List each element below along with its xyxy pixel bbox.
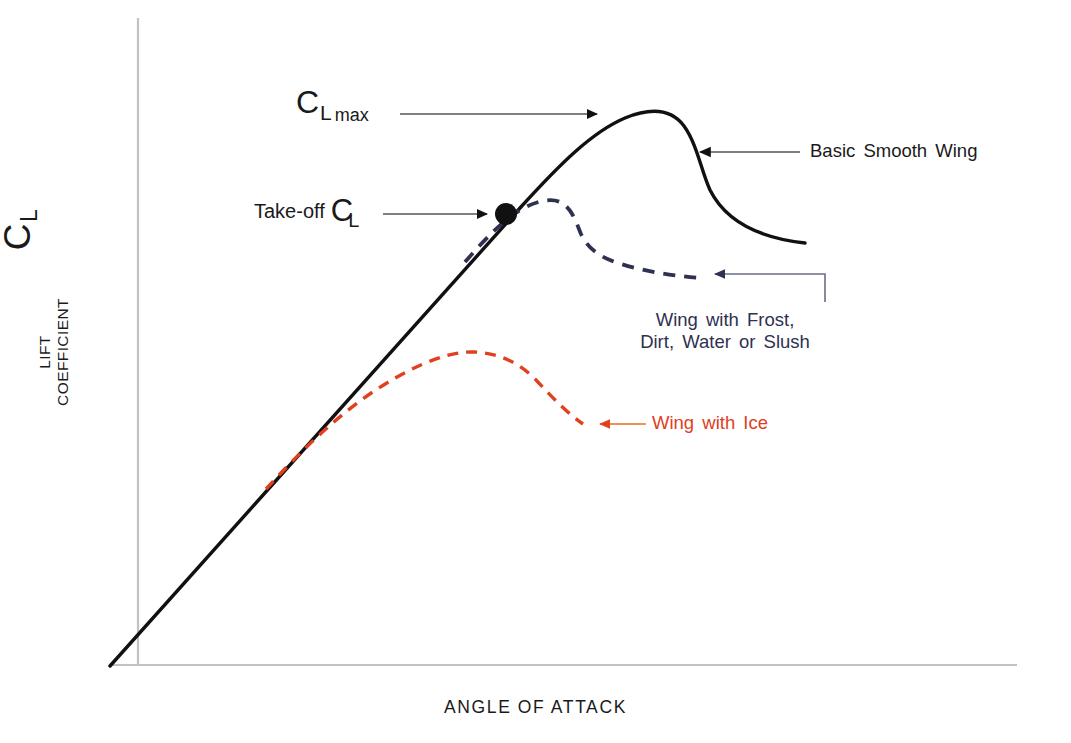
y-axis-title: LIFT COEFFICIENT: [36, 252, 73, 452]
take-off-prefix: Take-off: [254, 200, 325, 222]
curve-wing-with-ice: [266, 352, 583, 489]
y-axis-title-line1: LIFT: [36, 335, 53, 368]
lift-coefficient-chart: CL LIFT COEFFICIENT ANGLE OF ATTACK CLma…: [0, 0, 1071, 743]
cl-max-main: C: [296, 84, 319, 120]
y-axis-title-line2: COEFFICIENT: [54, 252, 72, 452]
take-off-point-marker: [495, 203, 517, 225]
x-axis-title: ANGLE OF ATTACK: [0, 697, 1071, 718]
annotation-leaders: [383, 114, 825, 424]
wing-with-ice-label: Wing with Ice: [652, 412, 768, 434]
frost-leader-line: [715, 274, 825, 302]
cl-max-subscript-max: max: [335, 105, 369, 125]
y-axis-symbol-subscript: L: [16, 209, 42, 222]
plot-canvas: [0, 0, 1071, 743]
take-off-subscript-l: L: [348, 209, 359, 231]
cl-max-subscript-l: L: [320, 101, 332, 124]
axis-lines: [110, 18, 1017, 666]
wing-with-frost-line2: Dirt, Water or Slush: [640, 331, 810, 353]
basic-smooth-wing-label: Basic Smooth Wing: [810, 140, 977, 162]
wing-with-frost-line1: Wing with Frost,: [656, 309, 795, 330]
wing-with-frost-label: Wing with Frost, Dirt, Water or Slush: [640, 309, 810, 353]
data-curves: [110, 111, 805, 666]
take-off-annotation-label: Take-offCL: [254, 190, 358, 227]
curve-basic-smooth-wing: [110, 111, 805, 666]
y-axis-symbol-main: C: [0, 223, 38, 250]
cl-max-annotation-label: CLmax: [296, 84, 365, 122]
y-axis-symbol: CL: [0, 150, 40, 310]
